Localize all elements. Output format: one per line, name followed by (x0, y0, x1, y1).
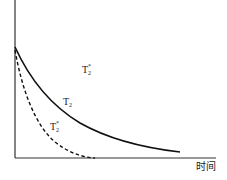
x-axis-label: 时间 (196, 162, 216, 172)
label-sub: 2 (69, 102, 72, 108)
label-sup: * (88, 63, 91, 69)
label-sup: * (56, 120, 59, 126)
label-sub: 2 (88, 70, 91, 76)
decay-chart (0, 0, 227, 180)
t2star-dashed-label: T2* (50, 120, 59, 133)
t2-solid-curve (15, 47, 180, 152)
t2-solid-label: T2 (63, 97, 72, 108)
label-sub: 2 (56, 127, 59, 133)
t2star-top-label: T2* (82, 63, 91, 76)
